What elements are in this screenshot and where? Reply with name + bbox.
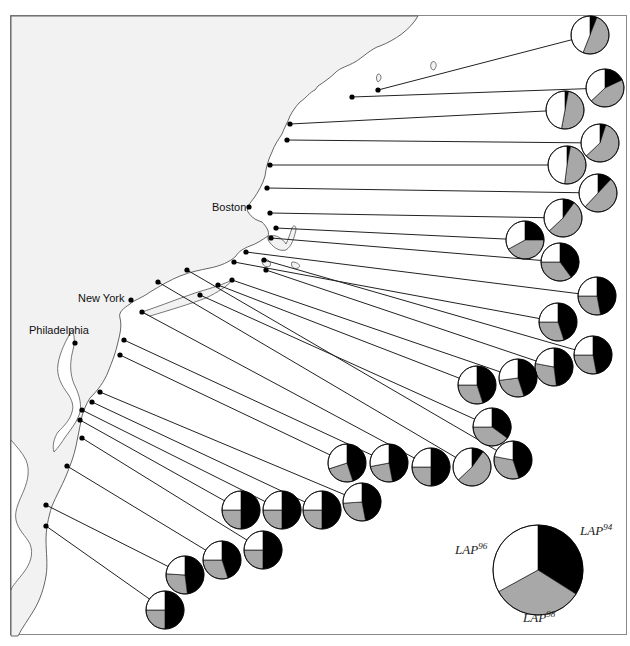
site-marker — [155, 279, 160, 284]
legend-label-lap94: LAP94 — [579, 522, 613, 538]
site-pie-5 — [548, 146, 586, 184]
city-label: Philadelphia — [29, 324, 90, 336]
site-pie-6 — [579, 174, 617, 212]
site-pie-12 — [574, 336, 612, 374]
site-pie-14-slice-lap96 — [499, 359, 518, 380]
site-marker — [261, 257, 266, 262]
site-marker — [43, 523, 48, 528]
connector-line — [378, 35, 590, 90]
site-pie-28-slice-lap98 — [166, 574, 187, 594]
site-pie-21 — [328, 444, 366, 482]
site-pie-28 — [166, 556, 204, 594]
site-pie-26 — [244, 531, 282, 569]
site-marker — [284, 137, 289, 142]
map-chart: Boston New York Philadelphia LAP94 LAP96… — [0, 0, 630, 646]
site-pie-25-slice-lap94 — [241, 491, 260, 529]
site-marker — [121, 337, 126, 342]
site-marker — [243, 249, 248, 254]
site-pie-14 — [499, 359, 537, 397]
site-pie-22-slice-lap94 — [362, 483, 381, 521]
site-pie-19 — [412, 448, 450, 486]
connector-line — [67, 466, 222, 560]
connector-line — [290, 110, 565, 124]
site-marker — [264, 185, 269, 190]
site-pie-10 — [578, 277, 616, 315]
site-pie-24-slice-lap94 — [282, 491, 301, 529]
city-dot — [72, 340, 77, 345]
site-pie-3-slice-lap96 — [546, 91, 565, 129]
site-pie-8 — [506, 221, 544, 259]
connector-line — [267, 188, 598, 193]
city-dot — [128, 297, 133, 302]
city-label: New York — [78, 292, 125, 304]
city-boston: Boston — [212, 201, 252, 213]
site-marker — [215, 282, 220, 287]
site-marker — [139, 309, 144, 314]
site-pie-20 — [370, 444, 408, 482]
site-marker — [268, 235, 273, 240]
site-pie-10-slice-lap98 — [578, 296, 601, 315]
connector-line — [287, 140, 600, 143]
site-marker — [263, 267, 268, 272]
site-marker — [43, 502, 48, 507]
site-marker — [89, 399, 94, 404]
site-pie-12-slice-lap94 — [593, 336, 612, 374]
site-pie-3 — [546, 91, 584, 129]
legend: LAP94 LAP96 LAP98 — [454, 522, 613, 625]
site-pie-15 — [458, 366, 496, 404]
site-pie-11 — [539, 303, 577, 341]
site-marker — [375, 87, 380, 92]
site-pie-22 — [343, 483, 381, 521]
site-marker — [349, 94, 354, 99]
site-marker — [267, 162, 272, 167]
site-pie-29 — [146, 591, 184, 629]
connector-line — [158, 282, 472, 467]
site-pie-24 — [263, 491, 301, 529]
site-marker — [79, 407, 84, 412]
site-pie-26-slice-lap94 — [263, 531, 282, 569]
site-pie-7 — [544, 199, 582, 237]
connector-line — [270, 213, 563, 218]
site-pie-1 — [571, 16, 609, 54]
site-pie-29-slice-lap94 — [165, 591, 184, 629]
site-marker — [231, 259, 236, 264]
legend-label-lap96: LAP96 — [454, 541, 488, 557]
connector-line — [80, 420, 241, 510]
city-label: Boston — [212, 201, 246, 213]
site-marker — [229, 277, 234, 282]
site-marker — [97, 389, 102, 394]
city-dot — [246, 204, 251, 209]
connector-line — [200, 295, 492, 427]
site-marker — [77, 417, 82, 422]
site-marker — [79, 435, 84, 440]
site-pie-5-slice-lap96 — [548, 146, 567, 184]
site-pie-9 — [541, 243, 579, 281]
site-pie-13-slice-lap94 — [554, 348, 573, 386]
site-pie-18 — [453, 448, 491, 486]
site-marker — [197, 292, 202, 297]
site-pie-12-slice-lap98 — [574, 355, 597, 374]
connector-line — [276, 228, 525, 240]
maine-islands — [377, 62, 437, 82]
site-pie-23 — [303, 491, 341, 529]
legend-pie — [493, 525, 583, 615]
site-marker — [184, 267, 189, 272]
connector-line — [266, 270, 554, 367]
site-pie-22-slice-lap98 — [343, 502, 366, 521]
connector-line — [46, 505, 185, 575]
site-pie-16 — [473, 408, 511, 446]
site-marker — [273, 225, 278, 230]
site-pie-2 — [586, 69, 624, 107]
legend-label-lap98: LAP98 — [522, 609, 556, 625]
site-pie-10-slice-lap94 — [597, 277, 616, 315]
site-pie-4 — [581, 124, 619, 162]
site-marker — [287, 121, 292, 126]
site-marker — [117, 352, 122, 357]
site-pie-28-slice-lap94 — [185, 556, 204, 594]
site-pie-23-slice-lap94 — [322, 491, 341, 529]
site-pie-20-slice-lap96 — [370, 444, 389, 467]
site-pie-25 — [222, 491, 260, 529]
site-pie-13 — [535, 348, 573, 386]
site-pie-17 — [494, 441, 532, 479]
site-marker — [64, 463, 69, 468]
